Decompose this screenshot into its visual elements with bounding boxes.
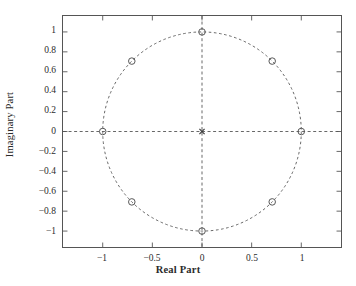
x-tick-label: 1 xyxy=(300,254,305,264)
pole-zero-plot-figure: Imaginary Part 10.80.60.40.20−0.2−0.4−0.… xyxy=(0,0,356,286)
y-tick-label: −0.8 xyxy=(20,207,56,217)
zero-marker xyxy=(129,58,136,65)
y-tick-label: −1 xyxy=(20,227,56,237)
y-tick-label: 0.4 xyxy=(20,87,56,97)
x-tick-label: −1 xyxy=(97,254,107,264)
y-axis-label-container: Imaginary Part xyxy=(2,0,18,248)
x-axis-label: Real Part xyxy=(0,264,356,275)
y-tick-label: 0.6 xyxy=(20,66,56,76)
plot-area xyxy=(62,15,342,248)
x-tick-label: 0.5 xyxy=(246,254,258,264)
zero-marker xyxy=(269,58,276,65)
x-tick-label: −0.5 xyxy=(143,254,160,264)
y-tick-label: −0.2 xyxy=(20,147,56,157)
y-tick-label: 1 xyxy=(20,26,56,36)
y-tick-label: 0.2 xyxy=(20,107,56,117)
y-axis-label: Imaginary Part xyxy=(5,91,16,157)
x-tick-label: 0 xyxy=(200,254,205,264)
y-tick-label: −0.6 xyxy=(20,187,56,197)
y-tick-label: −0.4 xyxy=(20,167,56,177)
y-tick-label: 0.8 xyxy=(20,46,56,56)
plot-canvas xyxy=(63,16,341,247)
y-tick-label: 0 xyxy=(20,127,56,137)
